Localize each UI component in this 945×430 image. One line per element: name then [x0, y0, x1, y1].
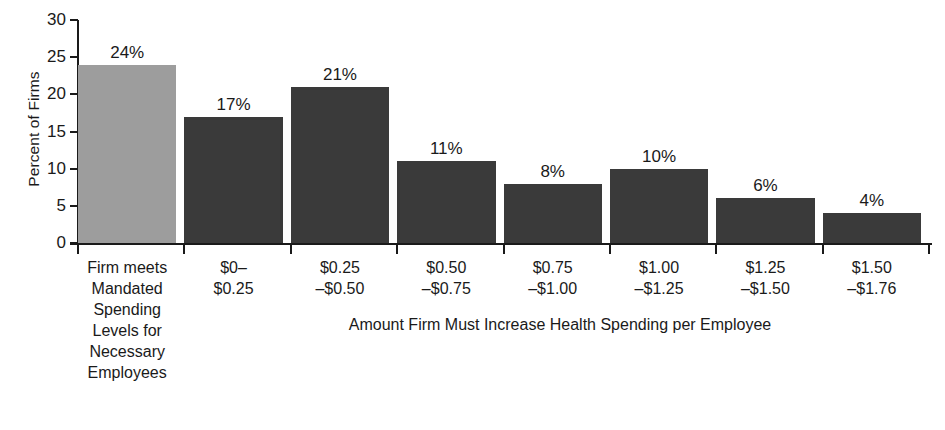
x-axis-category-label: $1.25–$1.50 — [716, 257, 814, 299]
bar: 24% — [78, 65, 176, 243]
bar-value-label: 8% — [540, 163, 565, 180]
x-axis-category-label: $0.50–$0.75 — [397, 257, 495, 299]
bar-rect — [78, 65, 176, 243]
bar-rect — [397, 161, 495, 243]
x-axis-category-label-line: $0.25 — [291, 257, 389, 278]
x-axis-category-label-line: –$1.76 — [823, 278, 921, 299]
x-axis-category-label-line: $1.50 — [823, 257, 921, 278]
x-axis-category-label-line: –$1.00 — [504, 278, 602, 299]
x-axis-category-label: $1.50–$1.76 — [823, 257, 921, 299]
x-axis-category-label-line: Necessary — [78, 341, 176, 362]
x-axis-category-label-line: Spending — [78, 299, 176, 320]
x-axis-category-label-line: $0– — [184, 257, 282, 278]
x-axis-category-label: $0.25–$0.50 — [291, 257, 389, 299]
bar-rect — [291, 87, 389, 243]
bar-value-label: 4% — [860, 192, 885, 209]
x-axis-category-label-line: Employees — [78, 362, 176, 383]
bar-rect — [504, 184, 602, 243]
bar-value-label: 21% — [323, 66, 357, 83]
bar-value-label: 10% — [642, 148, 676, 165]
bar-chart: Percent of Firms 051015202530 24%17%21%1… — [0, 0, 945, 430]
bar: 6% — [716, 198, 814, 243]
bar-rect — [823, 213, 921, 243]
x-axis-category-label-line: –$1.25 — [610, 278, 708, 299]
x-axis-category-label-line: $0.75 — [504, 257, 602, 278]
x-axis-category-label-line: Mandated — [78, 278, 176, 299]
bar: 17% — [184, 117, 282, 243]
x-axis-category-label-line: Firm meets — [78, 257, 176, 278]
x-axis-category-label-line: –$1.50 — [716, 278, 814, 299]
bar: 21% — [291, 87, 389, 243]
bar-value-label: 11% — [430, 140, 463, 157]
bar: 11% — [397, 161, 495, 243]
x-axis-category-label-line: $0.50 — [397, 257, 495, 278]
x-axis-category-label: Firm meetsMandatedSpendingLevels forNece… — [78, 257, 176, 383]
bar-rect — [716, 198, 814, 243]
x-axis-category-label-line: $1.00 — [610, 257, 708, 278]
x-axis-category-label-line: –$0.75 — [397, 278, 495, 299]
bar: 4% — [823, 213, 921, 243]
x-axis-category-label: $0.75–$1.00 — [504, 257, 602, 299]
x-axis-category-label: $0–$0.25 — [184, 257, 282, 299]
bar-rect — [184, 117, 282, 243]
x-axis-category-label-line: Levels for — [78, 320, 176, 341]
bar-value-label: 6% — [753, 177, 778, 194]
x-axis-category-label-line: $0.25 — [184, 278, 282, 299]
bar-rect — [610, 169, 708, 243]
x-axis-category-label: $1.00–$1.25 — [610, 257, 708, 299]
x-axis-category-label-line: $1.25 — [716, 257, 814, 278]
bar: 10% — [610, 169, 708, 243]
x-axis-title: Amount Firm Must Increase Health Spendin… — [190, 316, 930, 334]
bar: 8% — [504, 184, 602, 243]
x-axis-category-label-line: –$0.50 — [291, 278, 389, 299]
bar-value-label: 24% — [110, 44, 144, 61]
bar-value-label: 17% — [217, 96, 251, 113]
